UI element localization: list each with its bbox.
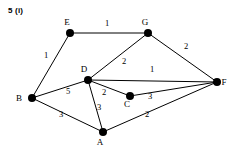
graph-edge: [130, 82, 217, 96]
node-label: E: [64, 17, 70, 27]
node-label: C: [124, 99, 130, 109]
nodes-group: [28, 29, 221, 136]
node-label: A: [97, 137, 104, 147]
graph-node: [144, 29, 152, 37]
node-label: G: [142, 17, 149, 27]
edge-weight-label: 3: [148, 91, 152, 101]
graph-edge: [32, 98, 103, 132]
graph-edge: [88, 33, 148, 80]
graph-node: [66, 29, 74, 37]
edge-weight-label: 1: [105, 18, 109, 28]
node-label: D: [81, 64, 88, 74]
graph-edge: [148, 33, 217, 82]
edge-weight-label: 1: [150, 64, 154, 74]
graph-node: [84, 76, 92, 84]
graph-canvas: 11221523323 EGFBDCA: [0, 0, 236, 157]
edge-weight-label: 2: [145, 109, 149, 119]
edge-weight-label: 1: [44, 50, 48, 60]
edge-weight-label: 2: [102, 87, 106, 97]
graph-edge: [32, 33, 70, 98]
node-label: B: [16, 93, 22, 103]
graph-edge: [103, 82, 217, 132]
graph-node: [213, 78, 221, 86]
edge-weight-label: 3: [97, 102, 101, 112]
graph-node: [28, 94, 36, 102]
edge-weight-label: 3: [59, 109, 63, 119]
edge-weight-label: 2: [122, 56, 126, 66]
graph-figure: 5 (i) 11221523323 EGFBDCA: [0, 0, 236, 157]
graph-edge: [88, 80, 217, 82]
edge-weight-label: 2: [184, 41, 188, 51]
graph-node: [99, 128, 107, 136]
graph-edge: [88, 80, 130, 96]
node-label: F: [221, 77, 226, 87]
edge-weight-label: 5: [66, 86, 70, 96]
